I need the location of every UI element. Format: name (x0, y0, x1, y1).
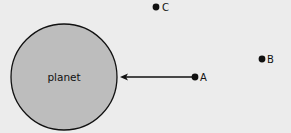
point-b-label: B (267, 54, 274, 65)
planet-label: planet (47, 71, 80, 83)
point-b: B (259, 54, 274, 65)
point-a: A (192, 72, 207, 83)
point-c: C (153, 2, 169, 13)
point-b-dot (259, 56, 266, 63)
force-arrow (120, 74, 195, 81)
diagram-canvas: planet A B C (0, 0, 291, 133)
planet: planet (11, 24, 117, 130)
point-c-dot (153, 4, 160, 11)
point-a-dot (192, 74, 199, 81)
point-a-label: A (200, 72, 207, 83)
point-c-label: C (162, 2, 169, 13)
